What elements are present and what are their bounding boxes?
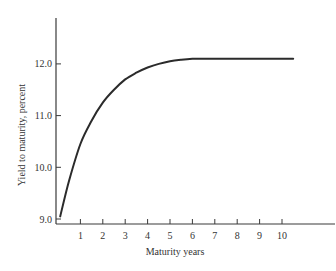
x-tick-label: 7 xyxy=(212,230,217,241)
yield-curve-chart: 9.010.011.012.0 12345678910 Maturity yea… xyxy=(0,0,336,271)
x-tick-label: 3 xyxy=(123,230,128,241)
x-tick-label: 8 xyxy=(235,230,240,241)
y-tick-label: 10.0 xyxy=(35,162,53,173)
x-axis: 12345678910 xyxy=(56,219,335,241)
y-tick-label: 11.0 xyxy=(35,110,52,121)
y-axis: 9.010.011.012.0 xyxy=(35,18,62,225)
y-tick-label: 9.0 xyxy=(40,214,53,225)
x-tick-label: 6 xyxy=(190,230,195,241)
x-tick-label: 4 xyxy=(145,230,150,241)
x-axis-label: Maturity years xyxy=(146,246,205,257)
y-tick-label: 12.0 xyxy=(35,58,53,69)
x-tick-label: 1 xyxy=(78,230,83,241)
yield-curve-line xyxy=(60,59,293,217)
x-tick-label: 2 xyxy=(100,230,105,241)
x-tick-label: 5 xyxy=(168,230,173,241)
x-tick-label: 9 xyxy=(257,230,262,241)
x-tick-label: 10 xyxy=(277,230,287,241)
y-axis-label: Yield to maturity, percent xyxy=(16,84,27,186)
